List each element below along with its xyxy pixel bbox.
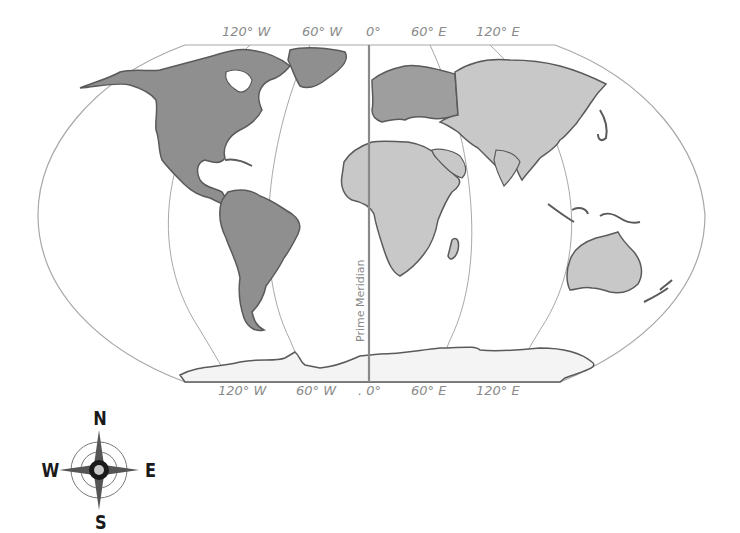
bottom-label-120e: 120° E bbox=[476, 383, 520, 398]
top-label-60w: 60° W bbox=[302, 24, 342, 39]
prime-meridian-label: Prime Meridian bbox=[354, 259, 367, 342]
compass-south: S bbox=[95, 511, 107, 533]
europe bbox=[372, 66, 458, 122]
bottom-label-120w: 120° W bbox=[218, 383, 266, 398]
top-label-60e: 60° E bbox=[411, 24, 446, 39]
top-label-120e: 120° E bbox=[476, 24, 520, 39]
compass-rose: N S W E bbox=[40, 405, 160, 533]
bottom-label-0: . 0° bbox=[358, 383, 381, 398]
compass-west: W bbox=[42, 459, 60, 481]
top-label-120w: 120° W bbox=[222, 24, 270, 39]
world-map bbox=[0, 0, 740, 400]
compass-east: E bbox=[145, 459, 156, 481]
bottom-label-60e: 60° E bbox=[411, 383, 446, 398]
bottom-label-60w: 60° W bbox=[296, 383, 336, 398]
compass-north: N bbox=[93, 407, 107, 429]
top-label-0: 0° bbox=[366, 24, 381, 39]
